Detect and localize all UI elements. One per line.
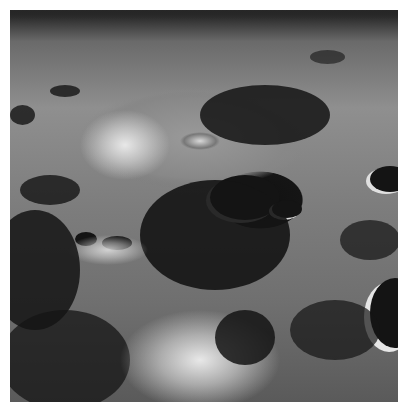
lunar-surface-photo [10, 10, 398, 402]
horizon-shadow [10, 10, 398, 20]
small-crater-4 [310, 50, 345, 64]
large-crater-rim-shadow [200, 85, 330, 145]
crater-chain-highlight [68, 235, 148, 265]
crater-right-upper [370, 166, 398, 192]
small-crater-2 [10, 105, 35, 125]
left-lower-shadow [10, 310, 130, 402]
small-crater-1 [50, 85, 80, 97]
small-crater-5 [340, 220, 398, 260]
small-crater-3 [20, 175, 80, 205]
valley-shadow [140, 180, 290, 290]
large-crater-rim-highlight [80, 110, 170, 180]
lower-right-shadow [290, 300, 380, 360]
lower-center-crater [215, 310, 275, 365]
central-peak [180, 132, 220, 150]
